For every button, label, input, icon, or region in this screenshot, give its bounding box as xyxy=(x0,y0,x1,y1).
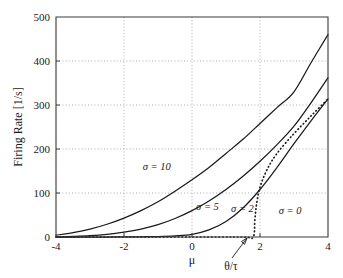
curve-label-sigma-0: σ = 0 xyxy=(279,205,303,216)
annotation-label: θ/τ xyxy=(224,260,238,272)
curve-label-sigma-5: σ = 5 xyxy=(196,201,219,212)
x-tick-label: 4 xyxy=(325,240,331,252)
curve-label-sigma-10: σ = 10 xyxy=(143,161,172,172)
y-tick-label: 300 xyxy=(34,99,51,111)
plot-frame xyxy=(56,17,328,237)
x-tick-label: -2 xyxy=(119,240,128,252)
x-axis-label: μ xyxy=(189,253,195,267)
y-tick-label: 0 xyxy=(45,231,51,243)
theta-tau-annotation: θ/τ xyxy=(224,238,247,272)
firing-rate-chart: -4-2024 0100200300400500 μ Firing Rate [… xyxy=(0,0,343,278)
x-tick-label: 2 xyxy=(257,240,263,252)
curve-label-sigma-2: σ = 2 xyxy=(231,203,255,214)
y-tick-label: 500 xyxy=(34,11,51,23)
y-axis-label: Firing Rate [1/s] xyxy=(11,87,25,166)
curve-labels: σ = 10σ = 5σ = 2σ = 0 xyxy=(143,161,303,216)
x-tick-label: -4 xyxy=(51,240,61,252)
axes xyxy=(56,17,328,237)
grid-lines xyxy=(56,17,328,237)
figure-container: -4-2024 0100200300400500 μ Firing Rate [… xyxy=(0,0,343,278)
x-tick-label: 0 xyxy=(189,240,195,252)
y-tick-label: 400 xyxy=(34,55,51,67)
annotation-arrow-line xyxy=(232,238,247,258)
y-tick-label: 100 xyxy=(34,187,51,199)
y-tick-label: 200 xyxy=(34,143,51,155)
